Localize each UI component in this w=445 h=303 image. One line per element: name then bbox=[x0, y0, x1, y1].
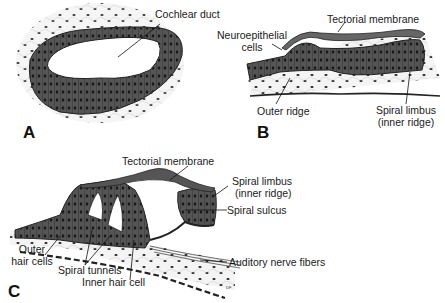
label-cochlear-duct: Cochlear duct bbox=[155, 8, 220, 20]
label-outer-hair-cells: Outer hair cells bbox=[8, 243, 56, 267]
label-spiral-sulcus: Spiral sulcus bbox=[227, 204, 287, 216]
label-spiral-tunnels: Spiral tunnels bbox=[58, 264, 122, 276]
label-spiral-limbus-b-line2: (inner ridge) bbox=[368, 116, 444, 128]
panel-label-c: C bbox=[8, 282, 20, 302]
label-spiral-limbus-b-line1: Spiral limbus bbox=[368, 104, 444, 116]
panel-label-a: A bbox=[23, 123, 35, 143]
label-neuroepithelial-cells: Neuroepithelial cells bbox=[217, 29, 287, 53]
panel-a-art bbox=[16, 3, 184, 123]
label-neuroepithelial-line1: Neuroepithelial bbox=[217, 29, 287, 41]
label-tectorial-membrane-c: Tectorial membrane bbox=[122, 155, 214, 167]
panel-label-b: B bbox=[257, 123, 269, 143]
label-neuroepithelial-line2: cells bbox=[217, 41, 287, 53]
artist-signature: DF bbox=[226, 285, 231, 290]
label-spiral-limbus-b: Spiral limbus (inner ridge) bbox=[368, 104, 444, 128]
label-spiral-limbus-c-line2: (inner ridge) bbox=[232, 187, 292, 199]
label-outer-hair-cells-line2: hair cells bbox=[8, 255, 56, 267]
label-tectorial-membrane-b: Tectorial membrane bbox=[327, 13, 419, 25]
label-outer-ridge: Outer ridge bbox=[257, 105, 310, 117]
label-inner-hair-cell: Inner hair cell bbox=[82, 276, 145, 288]
label-spiral-limbus-c-line1: Spiral limbus bbox=[232, 175, 292, 187]
label-auditory-nerve-fibers: Auditory nerve fibers bbox=[229, 256, 325, 268]
label-spiral-limbus-c: Spiral limbus (inner ridge) bbox=[232, 175, 292, 199]
label-outer-hair-cells-line1: Outer bbox=[8, 243, 56, 255]
